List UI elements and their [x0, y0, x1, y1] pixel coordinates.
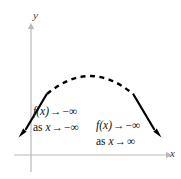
- right-arrow-icon: →: [112, 119, 126, 131]
- end-behavior-figure: y x f(x)→−∞ as x→−∞ f(x)→−∞ as x→∞: [0, 0, 181, 179]
- left-annotation-line-1: f(x)→−∞: [33, 104, 79, 120]
- left-function-expression: f(x): [33, 105, 49, 117]
- left-limit-value: −∞: [62, 105, 77, 117]
- right-annotation-line-2: as x→∞: [96, 134, 140, 150]
- right-as-keyword: as: [96, 135, 106, 147]
- y-axis-arrowhead: [28, 23, 34, 29]
- left-arrow-icon-2: →: [51, 121, 65, 133]
- right-variable-limit: ∞: [127, 135, 135, 147]
- figure-canvas: [0, 0, 181, 179]
- left-as-keyword: as: [33, 121, 43, 133]
- right-limit-value: −∞: [125, 119, 140, 131]
- y-axis-label: y: [33, 10, 38, 21]
- curve-dashed-middle: [47, 76, 133, 94]
- left-variable: x: [45, 121, 50, 133]
- right-arrow-icon-2: →: [114, 135, 128, 147]
- right-end-behavior-annotation: f(x)→−∞ as x→∞: [96, 118, 140, 149]
- curve-left-arrowhead: [19, 129, 27, 138]
- right-annotation-line-1: f(x)→−∞: [96, 118, 140, 134]
- right-function-expression: f(x): [96, 119, 112, 131]
- right-variable: x: [108, 135, 113, 147]
- left-variable-limit: −∞: [64, 121, 79, 133]
- left-end-behavior-annotation: f(x)→−∞ as x→−∞: [33, 104, 79, 135]
- left-arrow-icon: →: [49, 105, 63, 117]
- curve-right-arrowhead: [153, 129, 161, 138]
- left-annotation-line-2: as x→−∞: [33, 120, 79, 136]
- x-axis-label: x: [170, 148, 175, 159]
